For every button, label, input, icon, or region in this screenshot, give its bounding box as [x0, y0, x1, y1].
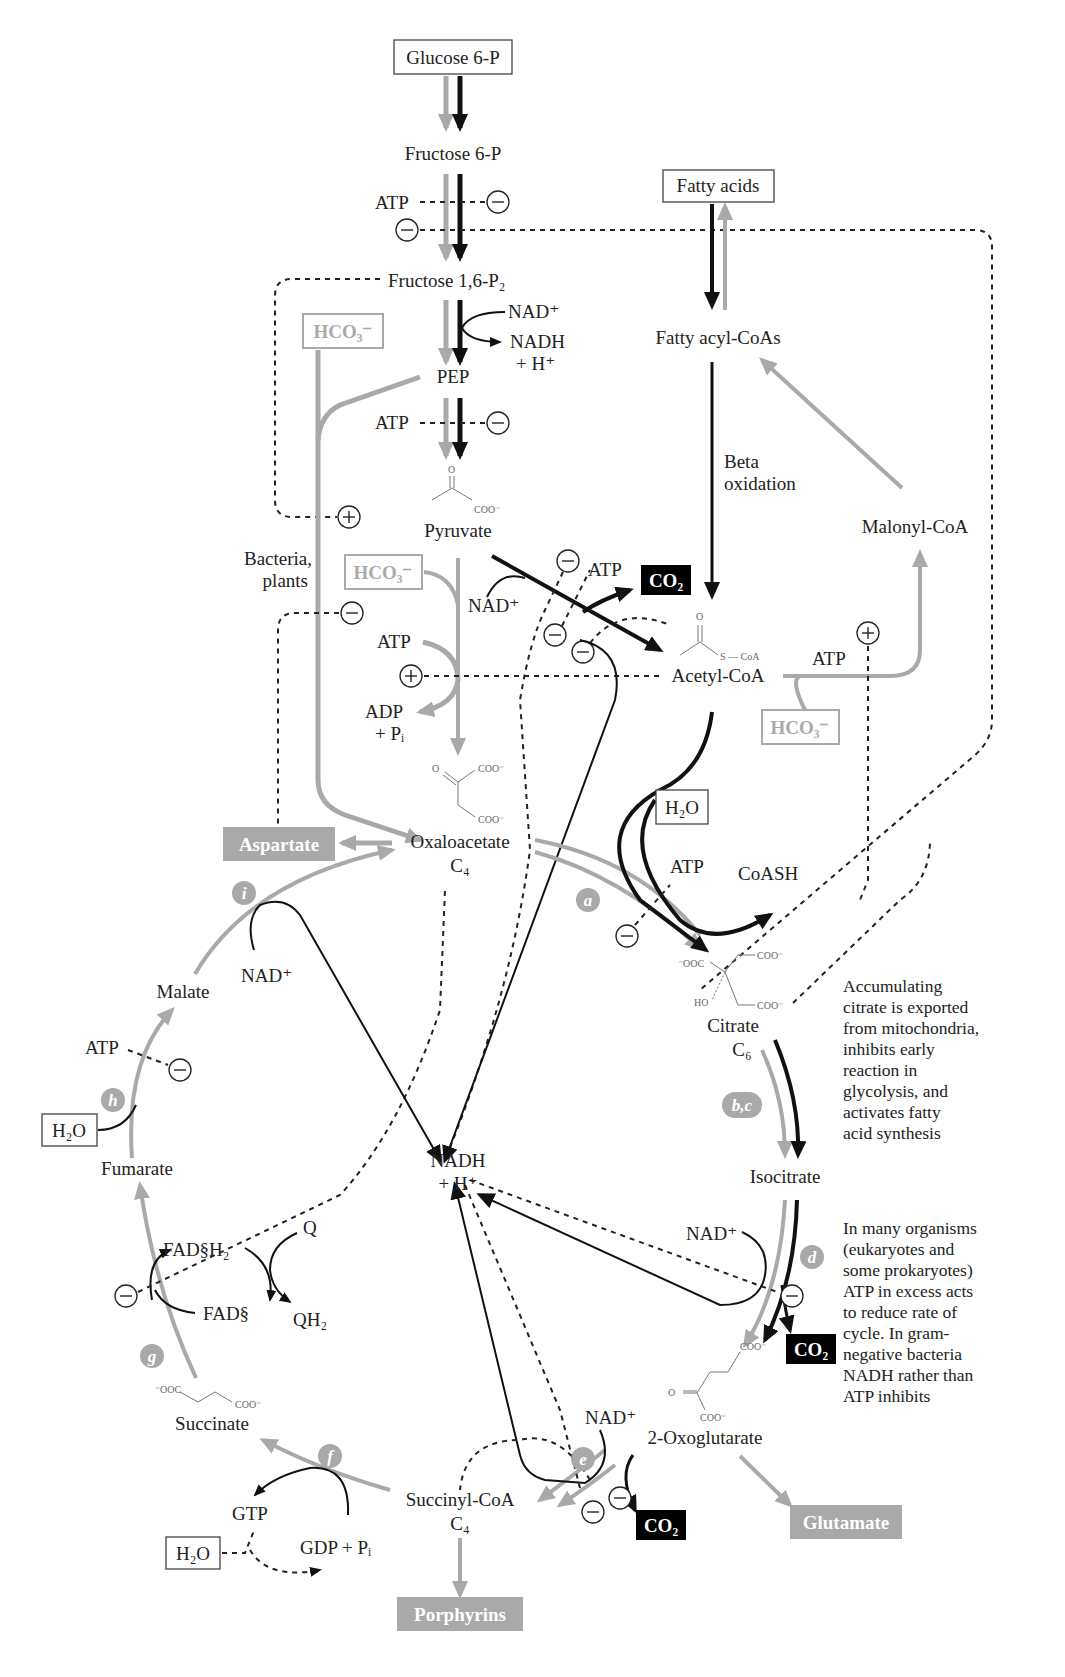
citrate-structure [710, 955, 755, 1005]
nad-ogdh-label: NAD⁺ [585, 1407, 636, 1428]
oxidation-label: oxidation [724, 473, 796, 494]
svg-text:reaction in: reaction in [843, 1060, 918, 1080]
inhibition-icon [544, 624, 566, 646]
svg-text:⁻OOC: ⁻OOC [155, 1384, 181, 1395]
nadh-label: NADH [510, 331, 565, 352]
coash-label: CoASH [738, 863, 798, 884]
qh2-label: QH₂ [293, 1309, 327, 1330]
atp-pk-label: ATP [375, 412, 409, 433]
inhibition-icon [582, 1501, 604, 1523]
svg-text:negative bacteria: negative bacteria [843, 1344, 962, 1364]
activation-icon [338, 506, 360, 528]
oxoglutarate-label: 2-Oxoglutarate [647, 1427, 762, 1448]
svg-text:Accumulating: Accumulating [843, 976, 942, 996]
svg-text:inhibits early: inhibits early [843, 1039, 935, 1059]
inhibition-icon [609, 1487, 631, 1509]
atp-pfk-label: ATP [375, 192, 409, 213]
oxaloacetate-structure [443, 770, 475, 817]
h2o-gtp-label: H₂O [176, 1543, 210, 1564]
svg-text:COO⁻: COO⁻ [474, 504, 500, 515]
succinyl-coa-c4-label: C₄ [450, 1513, 469, 1534]
svg-text:NADH rather than: NADH rather than [843, 1365, 973, 1385]
acetyl-coa-label: Acetyl-CoA [672, 665, 765, 686]
glutamate-label: Glutamate [803, 1512, 890, 1533]
svg-text:e: e [579, 1450, 587, 1469]
svg-text:COO⁻: COO⁻ [757, 1000, 783, 1011]
svg-text:from mitochondria,: from mitochondria, [843, 1018, 979, 1038]
isocitrate-label: Isocitrate [750, 1166, 821, 1187]
citrate-label: Citrate [707, 1015, 759, 1036]
aspartate-label: Aspartate [239, 834, 319, 855]
svg-text:g: g [147, 1347, 157, 1366]
svg-text:COO⁻: COO⁻ [478, 763, 504, 774]
plants-label: plants [263, 570, 308, 591]
q-label: Q [303, 1217, 317, 1238]
hco3-acc-label: HCO₃⁻ [771, 717, 830, 738]
svg-text:activates fatty: activates fatty [843, 1102, 941, 1122]
gtp-label: GTP [232, 1503, 268, 1524]
svg-text:d: d [808, 1248, 817, 1267]
inhibition-icon [557, 550, 579, 572]
porphyrins-label: Porphyrins [414, 1604, 506, 1625]
svg-text:glycolysis, and: glycolysis, and [843, 1081, 948, 1101]
activation-icon [400, 665, 422, 687]
svg-text:HO: HO [694, 997, 708, 1008]
inhibition-icon [487, 412, 509, 434]
activation-icon [857, 622, 879, 644]
beta-label: Beta [724, 451, 759, 472]
pep-label: PEP [437, 366, 470, 387]
oxoglutarate-structure [683, 1352, 740, 1410]
svg-text:cycle. In gram-: cycle. In gram- [843, 1323, 950, 1343]
inhibition-icon [487, 191, 509, 213]
h2o-fumarase-label: H₂O [52, 1120, 86, 1141]
bacteria-label: Bacteria, [244, 548, 312, 569]
svg-text:COO⁻: COO⁻ [235, 1399, 261, 1410]
pdh-nad-label: NAD⁺ [468, 595, 519, 616]
gdp-label: GDP + Pᵢ [300, 1537, 371, 1558]
inhibition-icon [781, 1285, 803, 1307]
svg-text:COO⁻: COO⁻ [740, 1341, 766, 1352]
svg-text:COO⁻: COO⁻ [478, 814, 504, 825]
pdh-atp-label: ATP [588, 559, 622, 580]
inhibition-icon [616, 925, 638, 947]
atp-pc-label: ATP [377, 631, 411, 652]
hco3-top-label: HCO₃⁻ [314, 321, 373, 342]
citrate-c6-label: C₆ [732, 1039, 751, 1060]
malonyl-coa-label: Malonyl-CoA [862, 516, 969, 537]
svg-text:h: h [108, 1091, 117, 1110]
pi-label: + Pᵢ [375, 723, 404, 744]
svg-text:O: O [448, 464, 455, 475]
svg-text:CO₂: CO₂ [649, 570, 684, 591]
fumarate-label: Fumarate [101, 1158, 173, 1179]
nad-mdh-label: NAD⁺ [241, 965, 292, 986]
fadh2-label: FAD§H₂ [163, 1239, 229, 1260]
svg-text:O: O [432, 763, 439, 774]
glycolysis-section: Glucose 6-P Fructose 6-P ATP Fructose 1,… [275, 40, 992, 990]
fatty-acids-label: Fatty acids [677, 175, 760, 196]
svg-text:In many organisms: In many organisms [843, 1218, 977, 1238]
inhibition-icon [396, 219, 418, 241]
tca-cycle-section: O COO⁻ COO⁻ Oxaloacetate C₄ Aspartate H₂… [42, 712, 930, 1631]
succinate-structure [180, 1392, 232, 1402]
citrate-note: Accumulating citrate is exported from mi… [843, 976, 979, 1143]
malate-label: Malate [157, 981, 210, 1002]
succinate-label: Succinate [175, 1413, 249, 1434]
atp-fumarase-label: ATP [85, 1037, 119, 1058]
fad-label: FAD§ [203, 1303, 249, 1324]
oxaloacetate-label: Oxaloacetate [410, 831, 509, 852]
nadh-center-label: NADH [431, 1150, 486, 1171]
nad-label: NAD⁺ [508, 301, 559, 322]
svg-text:citrate is exported: citrate is exported [843, 997, 969, 1017]
adp-label: ADP [365, 701, 403, 722]
acetyl-coa-structure [680, 625, 718, 655]
svg-text:ATP in excess acts: ATP in excess acts [843, 1281, 973, 1301]
pdh-section: NAD⁺ ATP CO₂ O S — CoA Acetyl-CoA [445, 550, 765, 1160]
svg-text:to reduce rate of: to reduce rate of [843, 1302, 957, 1322]
inhibition-icon [169, 1059, 191, 1081]
svg-text:a: a [584, 891, 593, 910]
glucose6p-label: Glucose 6-P [406, 47, 499, 68]
svg-text:O: O [696, 611, 703, 622]
svg-text:S — CoA: S — CoA [720, 651, 760, 662]
fatty-acyl-coas-label: Fatty acyl-CoAs [655, 327, 780, 348]
svg-text:CO₂: CO₂ [644, 1515, 679, 1536]
